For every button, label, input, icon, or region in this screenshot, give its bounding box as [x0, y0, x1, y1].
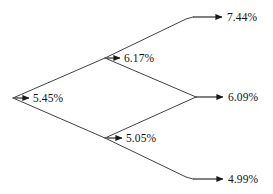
- edge-root-to-down: [13, 98, 105, 138]
- node-label-up: 6.17%: [124, 52, 154, 64]
- node-label-up-up: 7.44%: [227, 11, 257, 23]
- edge-down-to-downdown: [105, 138, 193, 179]
- interest-rate-tree-figure: 5.45% 6.17% 5.05% 7.44% 6.09% 4.99%: [0, 0, 273, 194]
- node-label-up-down: 6.09%: [228, 91, 258, 103]
- node-label-down: 5.05%: [126, 132, 156, 144]
- node-label-down-down: 4.99%: [228, 173, 258, 185]
- node-label-root: 5.45%: [33, 92, 63, 104]
